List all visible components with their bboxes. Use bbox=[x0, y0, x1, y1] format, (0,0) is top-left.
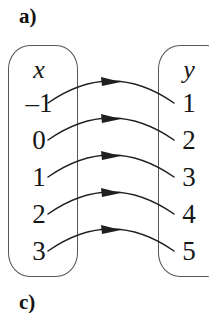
mapping-arrow-0 bbox=[48, 81, 174, 103]
mapping-arrow-3 bbox=[48, 192, 174, 214]
mapping-arrow-2 bbox=[48, 155, 174, 177]
part-label-c: c) bbox=[19, 292, 35, 313]
arrow-head-3 bbox=[101, 188, 121, 197]
mapping-arrow-1 bbox=[48, 118, 174, 140]
mapping-arrow-4 bbox=[48, 229, 174, 251]
figure-canvas: a) x –1 0 1 2 3 y 1 2 3 4 5 c) bbox=[0, 0, 209, 313]
mapping-arrows bbox=[0, 0, 209, 313]
arrow-head-4 bbox=[101, 225, 121, 234]
arrow-head-0 bbox=[101, 77, 121, 86]
arrow-head-2 bbox=[101, 151, 121, 160]
arrow-head-1 bbox=[101, 114, 121, 123]
